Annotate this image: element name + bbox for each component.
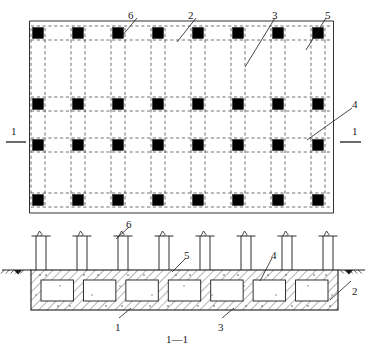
concrete-aggregate-dot: [105, 305, 107, 307]
section-void: [296, 280, 328, 301]
concrete-aggregate-dot: [151, 294, 153, 296]
section-column-break-symbol: [283, 231, 288, 236]
plan-column: [273, 140, 284, 151]
concrete-aggregate-dot: [213, 305, 215, 307]
plan-callout-2: 2: [188, 10, 194, 21]
section-void: [41, 280, 73, 301]
concrete-aggregate-dot: [175, 274, 177, 276]
section-marker-right-label: 1: [352, 126, 358, 137]
section-callout-5: 5: [184, 250, 190, 261]
section-callout-1: 1: [115, 322, 121, 333]
section-callout-2: 2: [352, 286, 358, 297]
concrete-aggregate-dot: [149, 305, 151, 307]
concrete-aggregate-dot: [183, 285, 185, 287]
concrete-aggregate-dot: [83, 274, 85, 276]
concrete-aggregate-dot: [197, 305, 199, 307]
plan-column: [193, 28, 204, 39]
section-callout-4: 4: [271, 250, 277, 261]
concrete-aggregate-dot: [275, 294, 277, 296]
plan-column: [113, 28, 124, 39]
plan-column: [233, 195, 244, 206]
section-column-break-symbol: [242, 231, 247, 236]
concrete-aggregate-dot: [57, 305, 59, 307]
concrete-aggregate-dot: [313, 274, 315, 276]
ground-level-marker: [14, 270, 22, 275]
section-column-break-symbol: [201, 231, 206, 236]
concrete-aggregate-dot: [285, 274, 287, 276]
concrete-aggregate-dot: [127, 274, 129, 276]
concrete-aggregate-dot: [69, 305, 71, 307]
plan-column: [233, 99, 244, 110]
concrete-aggregate-dot: [243, 285, 245, 287]
concrete-aggregate-dot: [223, 274, 225, 276]
section-column-break-symbol: [324, 231, 329, 236]
section-void: [126, 280, 158, 301]
concrete-aggregate-dot: [307, 285, 309, 287]
concrete-aggregate-dot: [119, 285, 121, 287]
plan-column: [113, 140, 124, 151]
plan-callout-6: 6: [128, 10, 134, 21]
ground-hatch-tick: [354, 270, 358, 274]
plan-column: [233, 140, 244, 151]
ground-hatch-tick: [11, 270, 15, 274]
section-marker-left-label: 1: [11, 126, 17, 137]
plan-callout-4: 4: [352, 99, 358, 110]
concrete-aggregate-dot: [245, 305, 247, 307]
plan-column: [273, 195, 284, 206]
plan-column: [233, 28, 244, 39]
section-void: [211, 280, 243, 301]
ground-hatch-tick: [358, 270, 362, 274]
concrete-aggregate-dot: [211, 294, 213, 296]
concrete-aggregate-dot: [59, 285, 61, 287]
ground-hatch-tick: [1, 270, 5, 274]
concrete-aggregate-dot: [39, 274, 41, 276]
drawing-canvas: [0, 0, 367, 351]
section-column-break-symbol: [160, 231, 165, 236]
section-void: [83, 280, 115, 301]
plan-column: [33, 28, 44, 39]
plan-column: [73, 140, 84, 151]
plan-column: [153, 195, 164, 206]
concrete-aggregate-dot: [97, 274, 99, 276]
plan-callout-3-leader: [245, 18, 275, 67]
plan-column: [33, 140, 44, 151]
section-view-group: [1, 231, 365, 310]
plan-column: [313, 99, 324, 110]
section-column-break-symbol: [78, 231, 83, 236]
section-callout-6: 6: [126, 219, 132, 230]
concrete-aggregate-dot: [121, 305, 123, 307]
ground-hatch-tick: [6, 270, 10, 274]
plan-callout-5: 5: [325, 10, 331, 21]
plan-column: [193, 140, 204, 151]
concrete-aggregate-dot: [291, 305, 293, 307]
concrete-aggregate-dot: [325, 274, 327, 276]
section-void: [168, 280, 200, 301]
plan-column: [113, 195, 124, 206]
plan-column: [273, 28, 284, 39]
concrete-aggregate-dot: [267, 274, 269, 276]
concrete-aggregate-dot: [331, 294, 333, 296]
plan-column: [73, 28, 84, 39]
concrete-aggregate-dot: [45, 274, 47, 276]
concrete-aggregate-dot: [143, 274, 145, 276]
section-title: 1—1: [166, 333, 188, 345]
concrete-aggregate-dot: [189, 274, 191, 276]
plan-column: [193, 195, 204, 206]
ground-hatch-tick: [340, 270, 344, 274]
plan-column: [33, 99, 44, 110]
plan-column: [193, 99, 204, 110]
plan-column: [313, 140, 324, 151]
plan-callout-4-leader: [307, 108, 352, 140]
plan-column: [273, 99, 284, 110]
concrete-aggregate-dot: [35, 294, 37, 296]
plan-column: [73, 195, 84, 206]
plan-column: [313, 195, 324, 206]
concrete-aggregate-dot: [307, 305, 309, 307]
concrete-aggregate-dot: [329, 305, 331, 307]
plan-view-group: [30, 21, 334, 213]
plan-column: [153, 99, 164, 110]
section-void: [253, 280, 285, 301]
section-column-break-symbol: [37, 231, 42, 236]
plan-column: [33, 195, 44, 206]
plan-column: [113, 99, 124, 110]
